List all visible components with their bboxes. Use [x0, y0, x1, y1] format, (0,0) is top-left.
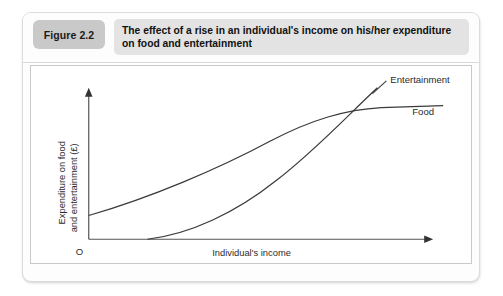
entertainment-series-label: Entertainment	[390, 74, 450, 85]
x-axis-arrowhead	[424, 235, 433, 243]
y-axis-label-line2: and entertainment (£)	[69, 143, 79, 232]
figure-header: Figure 2.2 The effect of a rise in an in…	[23, 13, 479, 63]
entertainment-label-leader	[372, 81, 386, 94]
chart-panel: Entertainment Food Expenditure on food a…	[30, 65, 472, 264]
figure-container: Figure 2.2 The effect of a rise in an in…	[22, 12, 480, 282]
chart-svg: Entertainment Food Expenditure on food a…	[31, 66, 471, 263]
figure-number-badge: Figure 2.2	[33, 20, 105, 49]
y-axis-arrowhead	[85, 88, 93, 97]
food-curve	[89, 106, 443, 216]
entertainment-curve	[147, 88, 377, 239]
figure-title: The effect of a rise in an individual's …	[114, 19, 469, 55]
food-series-label: Food	[412, 107, 434, 118]
x-axis-label: Individual's income	[212, 248, 291, 258]
y-axis-label-line1: Expenditure on food	[57, 141, 67, 224]
origin-label: O	[76, 246, 83, 257]
